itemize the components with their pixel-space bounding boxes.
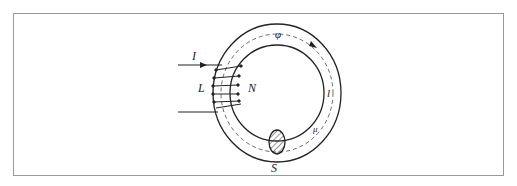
turns-label: N [247,81,257,95]
coil-windings [212,65,242,108]
permeability-label: μ [312,124,318,134]
toroid-diagram: I L N φ l μ S [0,0,517,186]
current-arrow-icon [200,62,207,68]
flux-label: φ [275,28,281,40]
inner-core-edge [230,45,324,141]
cross-section-icon [269,130,285,154]
cross-section-label: S [271,161,277,175]
length-label: l [327,87,330,99]
current-label: I [191,49,197,63]
flux-arrow-icon [309,41,317,48]
inductance-label: L [197,81,205,95]
